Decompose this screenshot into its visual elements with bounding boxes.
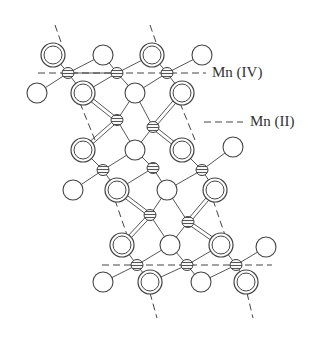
oxygen-atom — [160, 235, 180, 255]
mn-iv-atom — [230, 260, 242, 271]
label-mn-iv: Mn (IV) — [212, 64, 262, 81]
unit-cell-edge — [55, 25, 62, 45]
oxygen-atom-inner-ring — [113, 236, 131, 254]
unit-cell-edge — [80, 103, 95, 140]
oxygen-atom-inner-ring — [44, 46, 62, 64]
unit-cell-edge — [213, 200, 225, 235]
oxygen-atom — [93, 272, 113, 292]
crystal-structure-diagram — [0, 0, 333, 342]
oxygen-atom-inner-ring — [74, 141, 92, 159]
oxygen-atom — [125, 140, 145, 160]
oxygen-atom — [63, 180, 83, 200]
oxygen-atom — [27, 83, 47, 103]
oxygen-atom-inner-ring — [143, 46, 161, 64]
mn-ii-atom — [111, 115, 123, 126]
label-mn-ii: Mn (II) — [250, 113, 295, 130]
mn-ii-atom — [144, 210, 156, 221]
oxygen-atom-inner-ring — [206, 181, 224, 199]
mn-iv-atom — [181, 260, 193, 271]
mn-iv-atom — [196, 165, 208, 176]
mn-iv-atom — [111, 68, 123, 79]
oxygen-atom-inner-ring — [141, 273, 159, 291]
unit-cell-edge — [150, 293, 157, 318]
oxygen-atom — [192, 45, 212, 65]
oxygen-atom-inner-ring — [173, 84, 191, 102]
mn-iv-atom — [97, 165, 109, 176]
oxygen-atom — [191, 272, 211, 292]
oxygen-atom-inner-ring — [237, 273, 255, 291]
oxygen-atom — [223, 137, 243, 157]
oxygen-atom-inner-ring — [212, 236, 230, 254]
mn-iv-atom — [131, 260, 143, 271]
mn-ii-atom — [147, 122, 159, 133]
oxygen-atom-inner-ring — [108, 181, 126, 199]
oxygen-atom — [125, 83, 145, 103]
unit-cell-edge — [150, 25, 157, 45]
mn-ii-atom — [182, 217, 194, 228]
oxygen-atom-inner-ring — [74, 84, 92, 102]
oxygen-atom-inner-ring — [173, 141, 191, 159]
mn-iv-atom — [161, 68, 173, 79]
unit-cell-edge — [180, 103, 195, 140]
mn-iv-atom — [62, 68, 74, 79]
oxygen-atom — [93, 45, 113, 65]
mn-iv-atom — [147, 163, 159, 174]
unit-cell-edge — [115, 200, 127, 235]
oxygen-atom — [256, 237, 276, 257]
oxygen-atom — [157, 180, 177, 200]
unit-cell-edge — [247, 293, 253, 318]
